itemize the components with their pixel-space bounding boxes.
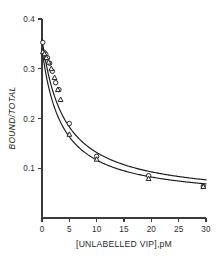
- y-tick-labels: 0.10.20.30.4: [23, 15, 35, 173]
- data-point-triangle: [58, 97, 63, 101]
- y-tick-label: 0.4: [23, 15, 35, 24]
- data-point-triangle: [67, 132, 72, 136]
- x-axis-group: 051015202530: [40, 218, 211, 234]
- data-point-circle: [41, 40, 45, 44]
- data-point-circle: [53, 80, 57, 84]
- x-tick-label: 0: [40, 225, 45, 234]
- x-tick-marks: [42, 218, 206, 222]
- binding-curve-figure: 0.10.20.30.4 051015202530 [UNLABELLED VI…: [0, 0, 219, 262]
- x-tick-label: 30: [201, 225, 211, 234]
- x-tick-label: 25: [174, 225, 184, 234]
- x-axis-title: [UNLABELLED VIP],pM: [76, 239, 172, 249]
- data-point-circle: [67, 121, 71, 125]
- x-tick-label: 5: [67, 225, 72, 234]
- fit-curve-series-circles: [42, 39, 206, 180]
- data-point-triangle: [52, 75, 57, 79]
- x-tick-label: 10: [92, 225, 102, 234]
- y-tick-label: 0.3: [23, 65, 35, 74]
- x-tick-label: 15: [119, 225, 129, 234]
- y-tick-label: 0.1: [23, 164, 35, 173]
- data-point-triangle: [49, 66, 54, 70]
- y-tick-label: 0.2: [23, 115, 35, 124]
- y-axis-group: 0.10.20.30.4: [23, 15, 42, 218]
- chart-canvas: 0.10.20.30.4 051015202530 [UNLABELLED VI…: [0, 0, 219, 262]
- y-axis-title: BOUND/TOTAL: [7, 86, 17, 149]
- fit-curves: [42, 39, 206, 184]
- x-tick-labels: 051015202530: [40, 225, 211, 234]
- x-tick-label: 20: [147, 225, 157, 234]
- data-point-markers: [40, 40, 205, 188]
- fit-curve-series-triangles: [42, 49, 206, 184]
